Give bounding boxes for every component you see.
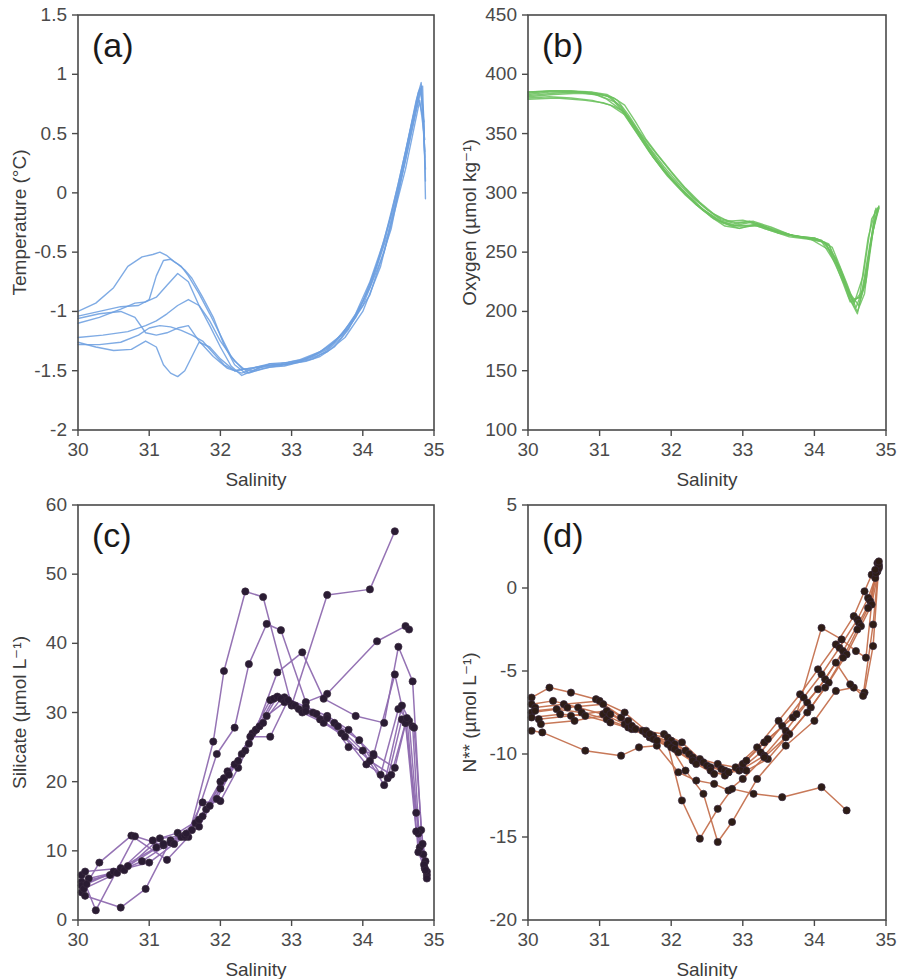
y-tick-label: 1: [56, 63, 67, 84]
data-point: [82, 892, 89, 899]
data-point: [82, 868, 89, 875]
y-tick-label: -2: [50, 419, 67, 440]
data-point: [870, 643, 877, 650]
x-tick-label: 32: [661, 439, 682, 460]
data-point: [235, 757, 242, 764]
data-point: [811, 717, 818, 724]
x-tick-label: 30: [517, 439, 538, 460]
data-point: [714, 805, 721, 812]
data-point: [632, 726, 639, 733]
data-point: [600, 701, 607, 708]
data-point: [206, 802, 213, 809]
y-axis-title: Oxygen (µmol kg⁻¹): [459, 139, 480, 306]
data-point: [635, 744, 642, 751]
data-point: [359, 747, 366, 754]
data-point: [366, 586, 373, 593]
data-point: [567, 689, 574, 696]
y-axis: -20-15-10-505: [490, 494, 528, 930]
panel-letter: (a): [92, 26, 134, 64]
data-point: [409, 678, 416, 685]
data-point: [183, 830, 190, 837]
data-point: [245, 740, 252, 747]
data-point: [403, 714, 410, 721]
y-tick-label: 10: [46, 840, 67, 861]
y-tick-label: 30: [46, 702, 67, 723]
x-tick-label: 31: [139, 929, 160, 950]
x-axis: 303132333435: [67, 430, 444, 460]
data-point: [395, 643, 402, 650]
data-point: [413, 828, 420, 835]
data-point: [284, 696, 291, 703]
data-point: [804, 709, 811, 716]
y-tick-label: -20: [490, 909, 517, 930]
data-point: [832, 659, 839, 666]
x-axis-title: Salinity: [225, 469, 287, 490]
y-axis: 0102030405060: [46, 494, 78, 930]
data-point: [607, 719, 614, 726]
data-point: [225, 771, 232, 778]
x-tick-label: 34: [352, 929, 374, 950]
data-point: [199, 813, 206, 820]
data-point: [381, 719, 388, 726]
data-point: [782, 742, 789, 749]
oxygen-panel-plot: 303132333435100150200250300350400450(b)S…: [458, 0, 906, 490]
x-tick-label: 32: [661, 929, 682, 950]
temperature-panel-plot: 303132333435-2-1.5-1-0.500.511.5(a)Salin…: [0, 0, 458, 490]
x-tick-label: 31: [589, 929, 610, 950]
data-point: [693, 760, 700, 767]
data-point: [260, 719, 267, 726]
y-tick-label: 0.5: [41, 123, 67, 144]
data-point: [779, 794, 786, 801]
data-point: [83, 880, 90, 887]
data-point: [381, 782, 388, 789]
data-point: [324, 714, 331, 721]
data-point: [675, 769, 682, 776]
y-axis: 100150200250300350400450: [485, 4, 528, 440]
data-point: [131, 833, 138, 840]
data-point: [678, 797, 685, 804]
y-tick-label: -1.5: [34, 360, 67, 381]
data-point: [213, 795, 220, 802]
data-point: [260, 593, 267, 600]
x-tick-label: 33: [281, 439, 302, 460]
data-point: [607, 711, 614, 718]
data-point: [242, 747, 249, 754]
x-tick-label: 34: [804, 439, 826, 460]
x-axis-title: Salinity: [676, 469, 738, 490]
data-point: [793, 711, 800, 718]
data-point: [571, 717, 578, 724]
data-point: [861, 588, 868, 595]
data-point: [92, 907, 99, 914]
x-tick-label: 35: [875, 439, 896, 460]
data-point: [832, 687, 839, 694]
data-point: [528, 694, 535, 701]
data-point: [391, 528, 398, 535]
y-tick-label: 60: [46, 494, 67, 515]
data-point: [528, 727, 535, 734]
plot-background: [78, 505, 434, 920]
silicate-panel: 3031323334350102030405060(c)SalinitySili…: [0, 490, 458, 979]
y-tick-label: 20: [46, 771, 67, 792]
y-tick-label: -15: [490, 826, 517, 847]
data-point: [539, 729, 546, 736]
data-point: [320, 695, 327, 702]
data-point: [410, 724, 417, 731]
data-point: [274, 669, 281, 676]
data-point: [195, 823, 202, 830]
data-point: [843, 807, 850, 814]
data-point: [696, 835, 703, 842]
data-point: [391, 671, 398, 678]
data-point: [267, 733, 274, 740]
data-point: [352, 712, 359, 719]
x-axis: 303132333435: [67, 920, 444, 950]
silicate-panel-plot: 3031323334350102030405060(c)SalinitySili…: [0, 490, 458, 979]
data-point: [419, 840, 426, 847]
y-tick-label: 1.5: [41, 4, 67, 25]
data-point: [782, 734, 789, 741]
y-tick-label: -0.5: [34, 241, 67, 262]
panel-letter: (d): [542, 516, 584, 554]
x-tick-label: 30: [517, 929, 538, 950]
data-point: [847, 681, 854, 688]
data-point: [423, 875, 430, 882]
y-tick-label: 350: [485, 123, 517, 144]
